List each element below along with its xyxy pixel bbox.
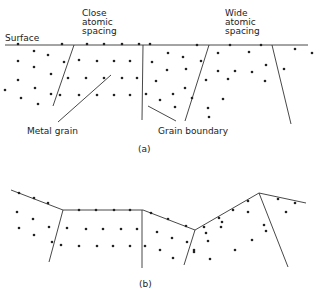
atom-dot [112,245,115,248]
atom-dot [166,69,169,72]
atom-dot [50,73,53,76]
atom-dot [96,94,99,97]
atom-dot [182,56,185,59]
panel-a: Surface Close atomic spacing Wide atomic… [4,8,314,154]
atom-dot [103,43,106,46]
atom-dot [102,228,105,231]
atom-dot [203,226,206,229]
atom-dot [248,51,251,54]
atom-dot [265,230,268,233]
grain-surface-diagram: Surface Close atomic spacing Wide atomic… [0,0,316,293]
atom-dot [33,50,36,53]
atom-dot [66,227,69,230]
atom-dot [285,211,288,214]
atom-dot [138,43,141,46]
atom-dot [129,209,132,212]
label-metal-grain: Metal grain [27,126,78,136]
atom-dot [218,217,221,220]
atom-dot [205,232,208,235]
panel-a-lines [5,45,308,124]
grain-boundary-line [53,45,74,106]
atom-dot [50,93,53,96]
panel-b-lines [11,190,306,268]
atom-dot [185,225,188,228]
atom-dot [78,209,81,212]
atom-dot [205,79,208,82]
atom-dot [264,80,267,83]
label-surface: Surface [5,33,40,43]
atom-dot [251,71,254,74]
atom-dot [86,43,89,46]
atom-dot [227,78,230,81]
atom-dot [144,245,147,248]
panel-b-atoms [16,192,297,261]
atom-dot [193,251,196,254]
atom-dot [174,106,177,109]
atom-dot [184,87,187,90]
atom-dot [4,89,7,92]
atom-dot [191,97,194,100]
atom-dot [185,68,188,71]
label-wide-spacing-3: spacing [225,26,260,36]
atom-dot [85,228,88,231]
atom-dot [265,64,268,67]
atom-dot [277,198,280,201]
atom-dot [155,80,158,83]
atom-dot [145,93,148,96]
grain-boundary-line [259,193,288,267]
atom-dot [17,43,20,46]
atom-dot [207,240,210,243]
atom-dot [294,48,297,51]
atom-dot [32,218,35,221]
atom-dot [59,94,62,97]
atom-dot [61,43,64,46]
deformed-surface-line [11,190,306,230]
atom-dot [150,212,153,215]
atom-dot [78,245,81,248]
panel-a-atoms [4,43,314,119]
atom-dot [33,66,36,69]
grain-boundary-line [185,45,209,121]
atom-dot [229,44,232,47]
atom-dot [232,209,235,212]
atom-dot [200,60,203,63]
atom-dot [222,98,225,101]
atom-dot [156,231,159,234]
atom-dot [33,234,36,237]
caption-b: (b) [139,279,152,289]
atom-dot [67,77,70,80]
atom-dot [159,99,162,102]
label-close-spacing-3: spacing [82,26,117,36]
atom-dot [33,197,36,200]
grain-boundary-line [184,230,195,265]
atom-dot [129,94,132,97]
atom-dot [113,60,116,63]
atom-dot [47,54,50,57]
atom-dot [120,228,123,231]
atom-dot [37,103,40,106]
label-grain-boundary: Grain boundary [158,126,229,136]
atom-dot [78,94,81,97]
atom-dot [136,228,139,231]
atom-dot [167,52,170,55]
atom-dot [251,239,254,242]
atom-dot [260,44,263,47]
atom-dot [171,237,174,240]
atom-dot [209,258,212,261]
atom-dot [16,211,19,214]
caption-a: (a) [138,144,151,154]
atom-dot [129,60,132,63]
atom-dot [34,87,37,90]
atom-dot [294,202,297,205]
atom-dot [129,245,132,248]
atom-dot [221,221,224,224]
atom-dot [208,116,211,119]
atom-dot [17,60,20,63]
atom-dot [196,44,199,47]
atom-dot [103,77,106,80]
atom-dot [18,227,21,230]
leader-line [58,75,111,122]
atom-dot [60,244,63,247]
atom-dot [51,241,54,244]
leader-line [148,106,176,121]
